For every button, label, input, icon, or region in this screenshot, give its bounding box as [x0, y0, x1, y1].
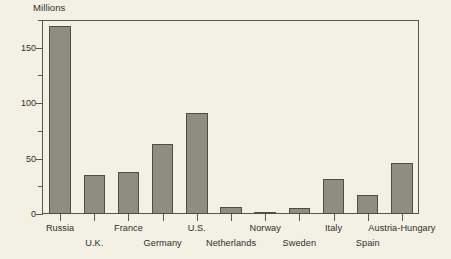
x-axis-tick-label: Italy [325, 223, 342, 233]
bar [152, 144, 174, 214]
y-tick-major [36, 214, 43, 215]
x-tick [402, 214, 403, 221]
x-tick [94, 214, 95, 221]
x-tick [197, 214, 198, 221]
x-axis-tick-label: U.K. [85, 238, 103, 248]
y-tick-major [36, 159, 43, 160]
bar [323, 179, 345, 214]
y-axis-tick-label: 150 [2, 43, 36, 53]
x-axis-tick-label: Russia [46, 223, 74, 233]
x-tick [299, 214, 300, 221]
y-axis-labels: 050100150 [0, 0, 36, 259]
bar [357, 195, 379, 214]
x-axis-tick-label: Austria-Hungary [368, 223, 435, 233]
x-tick [265, 214, 266, 221]
x-axis-tick-label: Sweden [283, 238, 317, 248]
x-axis-tick-label: Spain [356, 238, 380, 248]
bar [118, 172, 140, 214]
bar [186, 113, 208, 214]
y-axis-tick-label: 100 [2, 98, 36, 108]
x-axis-tick-label: U.S. [188, 223, 206, 233]
x-tick [163, 214, 164, 221]
bar [49, 26, 71, 214]
x-tick [334, 214, 335, 221]
plot-area [43, 20, 419, 214]
bar [84, 175, 106, 214]
x-tick [368, 214, 369, 221]
bar [391, 163, 413, 214]
y-tick-major [36, 103, 43, 104]
x-tick [128, 214, 129, 221]
y-axis-tick-label: 50 [2, 154, 36, 164]
y-tick-major [36, 48, 43, 49]
bar-chart: Millions 050100150 RussiaU.K.FranceGerma… [0, 0, 451, 259]
x-tick [60, 214, 61, 221]
x-axis-tick-label: Germany [144, 238, 182, 248]
x-axis-tick-label: Netherlands [206, 238, 256, 248]
y-axis-tick-label: 0 [2, 209, 36, 219]
x-tick [231, 214, 232, 221]
x-axis-tick-label: Norway [249, 223, 280, 233]
bar [220, 207, 242, 214]
x-axis-tick-label: France [114, 223, 143, 233]
y-axis-title: Millions [33, 2, 65, 13]
